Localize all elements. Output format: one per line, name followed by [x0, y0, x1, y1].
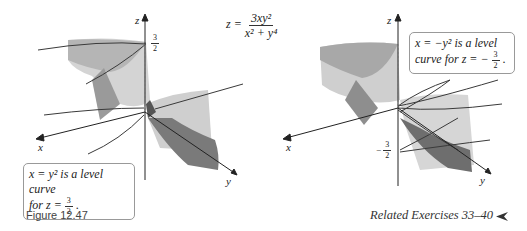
left-z-tick-den: 2: [153, 44, 157, 53]
left-callout-frac-num: 3: [65, 197, 73, 207]
equation-fraction: 3xy² x² + y⁴: [245, 12, 278, 39]
right-callout-prefix: curve for z = −: [415, 52, 489, 66]
right-callout-frac-den: 2: [494, 61, 498, 70]
left-z-tick-num: 3: [151, 34, 159, 44]
right-callout-line2: curve for z = − 3 2 .: [415, 51, 509, 70]
right-z-tick-sign: −: [376, 145, 381, 155]
left-z-axis-label: z: [135, 14, 139, 26]
figure-caption: Figure 12.47: [26, 209, 88, 221]
left-z-tick-fraction: 3 2: [151, 34, 159, 53]
right-z-tick-num: 3: [383, 141, 391, 151]
equation-numerator: 3xy²: [249, 12, 273, 26]
right-callout-line1: x = −y² is a level: [415, 36, 509, 51]
equation-denominator: x² + y⁴: [245, 26, 278, 39]
right-callout-frac-num: 3: [492, 51, 500, 61]
related-exercises-text: Related Exercises 33–40: [370, 208, 493, 222]
right-z-tick-den: 2: [385, 151, 389, 160]
right-z-axis-label: z: [387, 14, 391, 26]
surface-equation: z = 3xy² x² + y⁴: [226, 12, 277, 39]
right-y-axis-label: y: [480, 174, 485, 186]
right-callout-suffix: .: [503, 52, 506, 66]
left-y-axis-label: y: [226, 175, 231, 187]
left-surface: [68, 38, 219, 170]
related-exercises: Related Exercises 33–40: [370, 208, 508, 223]
left-callout-line1: x = y² is a level curve: [29, 167, 129, 197]
equation-lhs: z =: [226, 17, 242, 31]
right-callout-fraction: 3 2: [492, 51, 500, 70]
right-z-tick: − 3 2: [376, 141, 391, 160]
right-x-axis-label: x: [286, 141, 291, 153]
right-z-tick-fraction: 3 2: [383, 141, 391, 160]
left-x-axis-label: x: [38, 141, 43, 153]
left-z-tick: 3 2: [151, 34, 159, 53]
arrowhead-left-icon: [496, 212, 508, 221]
right-callout: x = −y² is a level curve for z = − 3 2 .: [409, 32, 515, 74]
